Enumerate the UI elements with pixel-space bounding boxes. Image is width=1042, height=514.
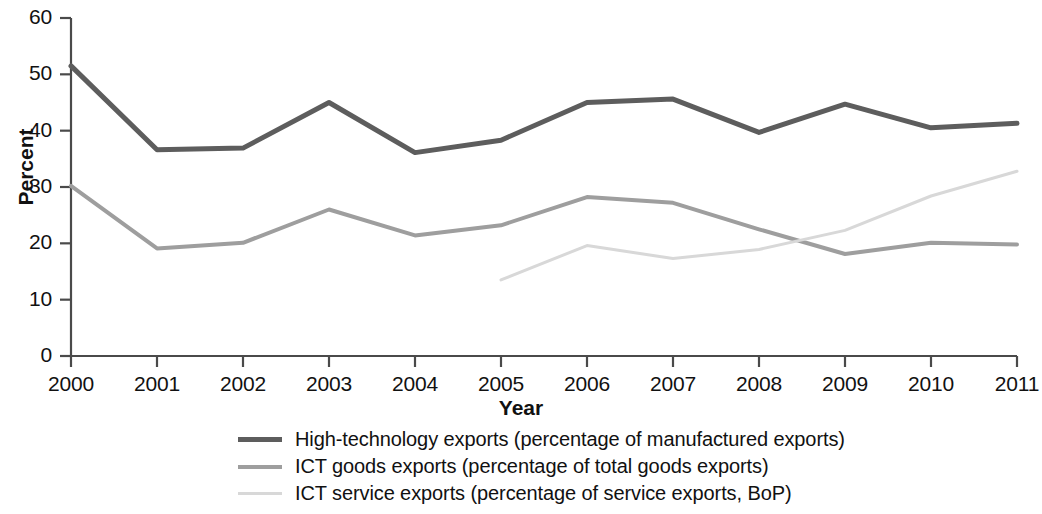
- legend-label: ICT goods exports (percentage of total g…: [295, 455, 769, 478]
- x-tick-label: 2003: [284, 372, 374, 396]
- x-tick-label: 2010: [886, 372, 976, 396]
- axis-lines: [71, 18, 1017, 356]
- line-chart-figure: 6050403020100 20002001200220032004200520…: [0, 0, 1042, 514]
- legend-label: ICT service exports (percentage of servi…: [295, 482, 791, 505]
- legend-label: High-technology exports (percentage of m…: [295, 428, 845, 451]
- y-tick-label: 50: [8, 61, 52, 85]
- x-tick-label: 2011: [972, 372, 1042, 396]
- legend-swatch-icon: [238, 492, 282, 495]
- axis-tick-marks: [60, 18, 1017, 367]
- x-tick-label: 2001: [112, 372, 202, 396]
- x-tick-label: 2005: [456, 372, 546, 396]
- series-line-0: [71, 66, 1017, 153]
- chart-legend: High-technology exports (percentage of m…: [238, 426, 1038, 507]
- x-tick-label: 2002: [198, 372, 288, 396]
- legend-item[interactable]: ICT goods exports (percentage of total g…: [238, 453, 1038, 480]
- y-tick-label: 10: [8, 287, 52, 311]
- x-tick-label: 2004: [370, 372, 460, 396]
- legend-item[interactable]: High-technology exports (percentage of m…: [238, 426, 1038, 453]
- legend-item[interactable]: ICT service exports (percentage of servi…: [238, 480, 1038, 507]
- series-line-2: [501, 171, 1017, 280]
- y-tick-label: 60: [8, 5, 52, 29]
- legend-swatch-icon: [238, 465, 282, 469]
- y-axis-title: Percent: [14, 112, 38, 222]
- x-tick-label: 2000: [26, 372, 116, 396]
- x-tick-label: 2008: [714, 372, 804, 396]
- x-tick-label: 2009: [800, 372, 890, 396]
- x-tick-label: 2006: [542, 372, 632, 396]
- x-tick-label: 2007: [628, 372, 718, 396]
- legend-swatch-icon: [238, 437, 282, 442]
- data-series-lines: [71, 66, 1017, 280]
- y-tick-label: 0: [8, 343, 52, 367]
- y-tick-label: 20: [8, 230, 52, 254]
- x-axis-title: Year: [0, 396, 1042, 420]
